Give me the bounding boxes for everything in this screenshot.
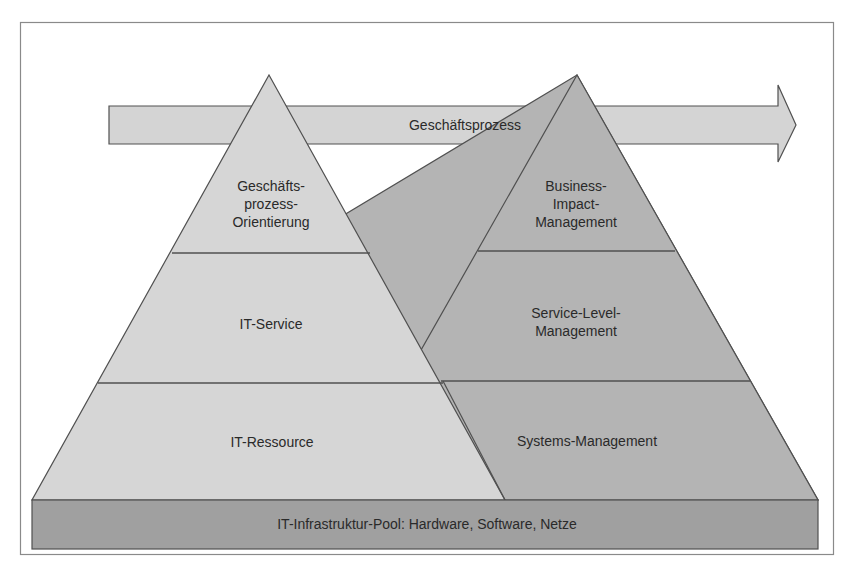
left-layer-3-label: IT-Ressource [230, 433, 313, 451]
right-layer-3-label: Systems-Management [517, 432, 657, 450]
label-line: Orientierung [232, 213, 309, 231]
label-line: Impact- [535, 195, 617, 213]
label-line: IT-Service [239, 315, 302, 333]
right-layer-2-label: Service-Level- Management [531, 304, 620, 340]
left-layer-2-label: IT-Service [239, 315, 302, 333]
layer-model-diagram [0, 0, 850, 573]
label-line: prozess- [232, 195, 309, 213]
right-layer-1-label: Business- Impact- Management [535, 177, 617, 231]
label-line: Management [535, 213, 617, 231]
label-line: Service-Level- [531, 304, 620, 322]
label-line: Business- [535, 177, 617, 195]
process-arrow-label: Geschäftsprozess [409, 116, 521, 134]
label-line: Geschäfts- [232, 177, 309, 195]
base-label: IT-Infrastruktur-Pool: Hardware, Softwar… [277, 515, 577, 533]
label-line: IT-Ressource [230, 433, 313, 451]
label-line: Systems-Management [517, 432, 657, 450]
label-line: Management [531, 322, 620, 340]
left-layer-1-label: Geschäfts- prozess- Orientierung [232, 177, 309, 231]
